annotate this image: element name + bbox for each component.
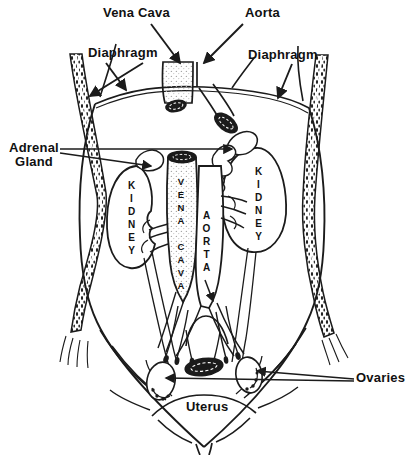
vena-cava-column-cut — [168, 151, 196, 162]
aorta-vertical-label: AORTA — [201, 210, 211, 275]
adrenal-gland-left-shape — [136, 150, 164, 171]
hatch-strokes-right — [322, 334, 348, 365]
diaphragm-left-label: Diaphragm — [88, 46, 158, 60]
vena-cava-label: Vena Cava — [103, 6, 170, 20]
aorta-arrow — [204, 24, 243, 63]
muscle-band-left — [60, 54, 106, 368]
uterus-label: Uterus — [186, 400, 228, 414]
broad-ligament-left — [110, 390, 150, 410]
diaphragm-right-label: Diaphragm — [248, 48, 318, 62]
ovary-left-shape — [143, 360, 178, 403]
ovary-right-shape — [233, 355, 265, 395]
aorta-label: Aorta — [245, 6, 280, 20]
hatch-strokes-left — [60, 336, 88, 368]
adrenal-gland-label: Adrenal Gland — [6, 141, 62, 170]
kidney-left-vertical-label: KIDNEY — [126, 180, 136, 258]
abdominal-anatomy-diagram: Vena Cava Aorta Diaphragm Diaphragm Adre… — [0, 0, 408, 455]
diaphragm-right-arrow — [278, 64, 292, 98]
kidney-right-vertical-label: KIDNEY — [253, 166, 263, 244]
iliac-vessels — [162, 306, 241, 366]
diaphragm-line — [95, 87, 309, 113]
vena-cava-vertical-label: VENA CAVA — [176, 176, 186, 293]
vena-cava-top — [162, 62, 197, 114]
broad-ligament-right — [258, 387, 298, 408]
colon-cross-section — [184, 356, 224, 378]
ovaries-label: Ovaries — [356, 371, 405, 385]
